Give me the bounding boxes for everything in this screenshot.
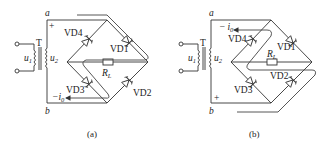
rl-label: RL: [266, 49, 277, 60]
terminal-icon: [15, 69, 19, 73]
transformer-label: T: [200, 38, 206, 48]
node-b-label: b: [209, 106, 214, 116]
panel-b: T u1 u2 a b + RL VD4 VD1 VD3 VD2 −i0 (b): [179, 8, 316, 139]
vd2-label: VD2: [133, 88, 152, 98]
diode-vd2-icon: [121, 75, 134, 88]
caption-b: (b): [249, 129, 260, 139]
terminal-icon: [179, 69, 183, 73]
vd4-label: VD4: [228, 34, 247, 44]
vd2-label: VD2: [270, 71, 289, 81]
vd1-label: VD1: [110, 44, 129, 54]
caption-a: (a): [87, 129, 97, 139]
u2-label: u2: [214, 53, 223, 64]
i0-label: −i0: [52, 92, 65, 103]
node-a-label: a: [209, 8, 214, 18]
vd1-label: VD1: [277, 42, 296, 52]
node-a-label: a: [45, 8, 50, 18]
plus-sign: +: [214, 93, 219, 103]
secondary-coil-icon: [46, 20, 48, 103]
vd4-label: VD4: [64, 28, 83, 38]
u1-label: u1: [24, 53, 32, 64]
bridge-rectifier-figure: T u1 u2 a b + RL VD4 VD1 VD3 VD2 −i0 (a): [0, 0, 321, 146]
rl-label: RL: [101, 68, 112, 79]
u2-label: u2: [50, 53, 59, 64]
i0-label: −i0: [219, 22, 234, 33]
primary-coil-icon: [198, 50, 200, 66]
vd3-label: VD3: [234, 85, 253, 95]
panel-a: T u1 u2 a b + RL VD4 VD1 VD3 VD2 −i0 (a): [15, 8, 152, 139]
primary-coil-icon: [34, 50, 36, 66]
terminal-icon: [179, 42, 183, 46]
plus-sign: +: [49, 21, 54, 31]
transformer-label: T: [36, 38, 42, 48]
u1-label: u1: [188, 53, 196, 64]
node-b-label: b: [45, 106, 50, 116]
terminal-icon: [15, 42, 19, 46]
secondary-coil-icon: [210, 20, 212, 103]
vd3-label: VD3: [66, 85, 85, 95]
